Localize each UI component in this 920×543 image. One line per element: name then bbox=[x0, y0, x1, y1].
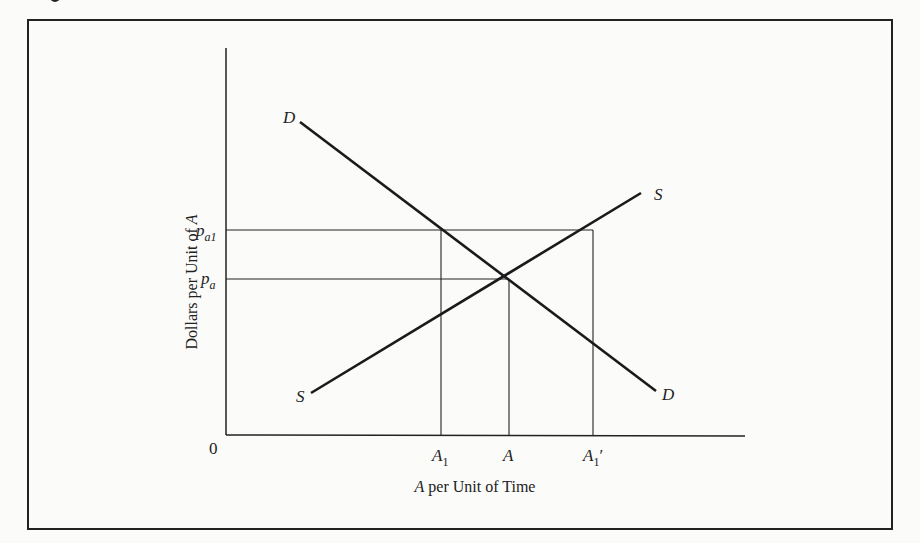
supply-curve bbox=[311, 193, 641, 393]
demand-label-top: D bbox=[283, 109, 295, 126]
quantity-label-A: A bbox=[503, 447, 513, 464]
quantity-label-A1-prime: A1′ bbox=[583, 447, 603, 464]
supply-label-top: S bbox=[654, 186, 663, 203]
origin-label: 0 bbox=[209, 440, 218, 457]
x-axis-title: A per Unit of Time bbox=[360, 478, 590, 496]
demand-curve bbox=[300, 122, 656, 391]
price-label-pa: pa bbox=[201, 270, 216, 287]
plot-area bbox=[0, 0, 920, 543]
x-axis bbox=[226, 435, 745, 436]
supply-label-bottom: S bbox=[296, 388, 305, 405]
y-axis-title: Dollars per Unit of A bbox=[183, 182, 201, 382]
demand-label-bottom: D bbox=[662, 386, 674, 403]
quantity-label-A1: A1 bbox=[432, 447, 448, 464]
